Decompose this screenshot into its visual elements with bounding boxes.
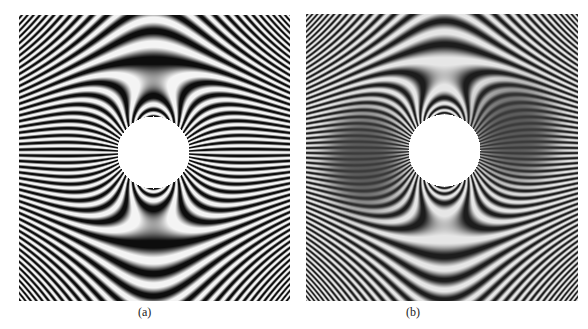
fringe-pattern-b <box>306 14 578 301</box>
panel-a-fringe-image <box>19 15 290 301</box>
caption-b: (b) <box>406 305 420 320</box>
caption-a: (a) <box>138 305 151 320</box>
panel-b-fringe-image <box>306 14 578 301</box>
fringe-pattern-a <box>19 15 290 301</box>
